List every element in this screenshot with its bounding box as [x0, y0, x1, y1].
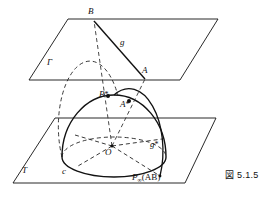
label-line-g: g [120, 38, 125, 47]
meridian-dashed-left [58, 61, 118, 157]
lower-plane-t [13, 118, 216, 183]
label-b-star-asterisk: * [105, 90, 109, 99]
ray-o-to-b [94, 21, 112, 146]
upper-plane-gamma [29, 19, 218, 80]
label-line-g-star: g* [150, 140, 159, 149]
label-point-b: B [88, 7, 94, 16]
label-point-at-infinity: P∞(AB) [132, 173, 160, 183]
label-plane-t: T [22, 166, 27, 175]
figure-container: B A g Γ T c O B* A* g* P∞(AB) 図 5.1.5 [0, 0, 273, 200]
figure-caption: 図 5.1.5 [225, 168, 259, 181]
label-circle-c: c [62, 167, 66, 176]
line-g-segment [94, 21, 145, 79]
label-center-o: O [105, 148, 112, 157]
label-point-b-star: B* [99, 90, 109, 99]
label-a-star-asterisk: * [126, 100, 130, 109]
label-point-a: A [142, 66, 148, 75]
label-plane-gamma: Γ [47, 58, 52, 67]
label-ab-argument: (AB) [142, 172, 161, 182]
label-point-a-star: A* [120, 100, 130, 109]
label-g-star-asterisk: * [155, 140, 159, 149]
chord-left-to-center [75, 135, 112, 146]
